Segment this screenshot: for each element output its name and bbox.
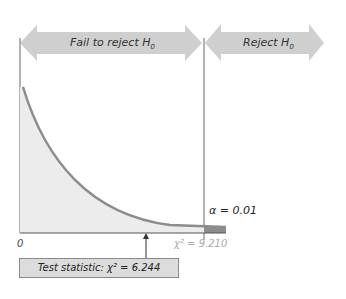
test-statistic-box: Test statistic: χ² = 6.244 bbox=[19, 258, 179, 278]
critical-value-label: χ² = 9.210 bbox=[174, 238, 227, 249]
pointer-arrowhead-icon bbox=[143, 233, 149, 239]
area-under-curve bbox=[20, 87, 204, 233]
fail-to-reject-label: Fail to reject H0 bbox=[70, 36, 155, 51]
alpha-label: α = 0.01 bbox=[209, 204, 257, 217]
origin-label: 0 bbox=[17, 238, 23, 249]
chi-square-diagram bbox=[0, 0, 346, 299]
reject-label: Reject H0 bbox=[243, 36, 294, 51]
